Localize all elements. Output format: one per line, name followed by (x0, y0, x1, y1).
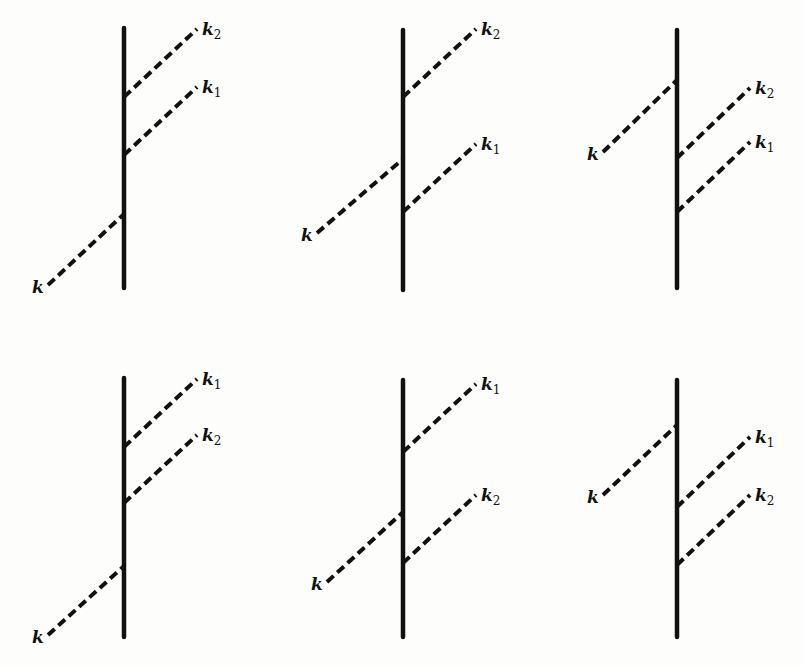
incoming-label: k (32, 627, 44, 647)
outgoing-label-k2-subscript: 2 (767, 87, 775, 101)
outgoing-label-k2: k2 (755, 485, 774, 508)
outgoing-label-k1-subscript: 1 (214, 378, 222, 392)
outgoing-label-k1-main: k (481, 134, 493, 154)
outgoing-label-k2-subscript: 2 (493, 494, 501, 508)
incoming-dashed-line (48, 566, 124, 635)
outgoing-dashed-line-k2 (677, 495, 750, 565)
incoming-dashed-line (327, 512, 403, 582)
diagram-1: kk2k1 (32, 19, 221, 297)
outgoing-label-k2-main: k (755, 78, 767, 98)
outgoing-dashed-line-k2 (403, 29, 476, 97)
outgoing-label-k2-subscript: 2 (214, 434, 222, 448)
outgoing-label-k2-subscript: 2 (214, 28, 222, 42)
outgoing-dashed-line-k2 (124, 435, 197, 503)
diagram-2: kk2k1 (301, 19, 500, 290)
outgoing-dashed-line-k2 (403, 495, 476, 563)
outgoing-label-k2-subscript: 2 (493, 28, 501, 42)
incoming-label-main: k (301, 225, 313, 245)
outgoing-dashed-line-k1 (677, 437, 750, 507)
outgoing-label-k1-subscript: 1 (767, 141, 775, 155)
outgoing-label-k2-subscript: 2 (767, 494, 775, 508)
diagram-svg: kk2k1kk2k1kk2k1kk1k2kk1k2kk1k2 (0, 0, 804, 665)
outgoing-dashed-line-k2 (124, 29, 197, 97)
outgoing-label-k1: k1 (202, 369, 221, 392)
diagram-5: kk1k2 (311, 374, 500, 637)
outgoing-label-k1: k1 (481, 134, 500, 157)
outgoing-dashed-line-k1 (403, 144, 476, 212)
outgoing-label-k1-main: k (755, 132, 767, 152)
incoming-label: k (32, 277, 44, 297)
outgoing-dashed-line-k2 (677, 88, 750, 158)
outgoing-label-k1: k1 (481, 374, 500, 397)
outgoing-label-k2-main: k (481, 485, 493, 505)
outgoing-label-k2: k2 (202, 425, 221, 448)
diagram-6: kk1k2 (587, 380, 774, 637)
outgoing-dashed-line-k1 (124, 87, 197, 155)
incoming-label-main: k (587, 487, 599, 507)
incoming-label: k (587, 144, 599, 164)
incoming-dashed-line (48, 214, 124, 285)
incoming-dashed-line (317, 159, 403, 233)
incoming-label-main: k (32, 627, 44, 647)
outgoing-label-k1-main: k (202, 369, 214, 389)
outgoing-label-k2: k2 (755, 78, 774, 101)
outgoing-label-k1: k1 (202, 77, 221, 100)
outgoing-dashed-line-k1 (124, 379, 197, 447)
outgoing-label-k1-subscript: 1 (493, 143, 501, 157)
outgoing-label-k2-main: k (202, 425, 214, 445)
outgoing-label-k2: k2 (202, 19, 221, 42)
incoming-label-main: k (32, 277, 44, 297)
outgoing-label-k2-main: k (755, 485, 767, 505)
outgoing-label-k2-main: k (202, 19, 214, 39)
outgoing-label-k2: k2 (481, 19, 500, 42)
incoming-label-main: k (587, 144, 599, 164)
outgoing-label-k1: k1 (755, 132, 774, 155)
outgoing-label-k1-subscript: 1 (767, 436, 775, 450)
outgoing-label-k1-main: k (755, 427, 767, 447)
incoming-dashed-line (603, 80, 677, 152)
diagram-figure: kk2k1kk2k1kk2k1kk1k2kk1k2kk1k2 (0, 0, 804, 665)
outgoing-label-k1-subscript: 1 (214, 86, 222, 100)
outgoing-label-k1-main: k (481, 374, 493, 394)
incoming-label: k (587, 487, 599, 507)
outgoing-label-k1-main: k (202, 77, 214, 97)
outgoing-label-k1-subscript: 1 (493, 383, 501, 397)
incoming-label: k (301, 225, 313, 245)
outgoing-dashed-line-k1 (403, 384, 476, 452)
incoming-dashed-line (603, 425, 677, 495)
outgoing-label-k2: k2 (481, 485, 500, 508)
incoming-label-main: k (311, 574, 323, 594)
diagram-3: kk2k1 (587, 30, 774, 288)
outgoing-label-k1: k1 (755, 427, 774, 450)
diagram-4: kk1k2 (32, 369, 221, 647)
incoming-label: k (311, 574, 323, 594)
outgoing-label-k2-main: k (481, 19, 493, 39)
outgoing-dashed-line-k1 (677, 142, 750, 212)
